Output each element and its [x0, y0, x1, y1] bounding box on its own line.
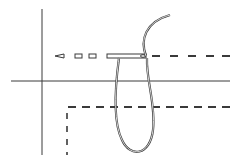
needle-tip-icon: [55, 54, 64, 58]
stitch-segment: [75, 54, 82, 58]
thread-tail-highlight: [144, 15, 170, 56]
upper-stitch-row: [55, 54, 230, 58]
hidden-stitches: [75, 54, 96, 58]
thread-loop-highlight: [116, 58, 154, 152]
running-stitch-diagram: [0, 0, 239, 163]
stitch-segment: [89, 54, 96, 58]
